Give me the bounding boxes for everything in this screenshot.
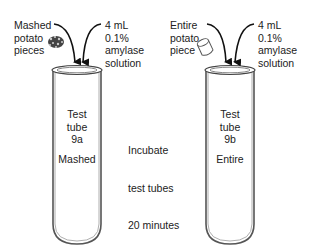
tube-9a-name: Test tube 9a xyxy=(53,108,101,146)
instruction-line: 20 minutes xyxy=(128,219,180,232)
instruction-line: test tubes xyxy=(128,182,180,195)
tube-9b-name: Test tube 9b xyxy=(206,108,254,146)
tube-9a-condition: Mashed xyxy=(53,153,101,166)
amylase-label-right: 4 mL 0.1% amylase solution xyxy=(258,19,297,69)
incubation-instruction: Incubate test tubes 20 minutes in warm w… xyxy=(128,119,180,252)
mashed-potato-label: Mashed potato pieces xyxy=(14,19,51,57)
tube-9b-condition: Entire xyxy=(206,153,254,166)
arrow-icon xyxy=(207,24,254,62)
amylase-label-left: 4 mL 0.1% amylase solution xyxy=(105,19,144,69)
entire-potato-label: Entire potato piece xyxy=(170,19,199,57)
instruction-line: Incubate xyxy=(128,144,180,157)
